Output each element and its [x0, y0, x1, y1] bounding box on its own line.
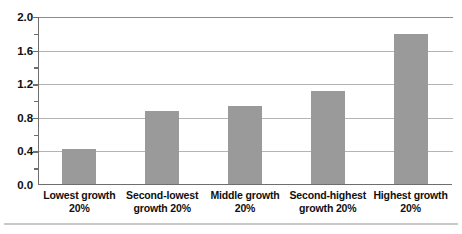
- y-axis-tick-label: 1.2: [0, 78, 33, 90]
- x-axis-label-second-highest-growth: Second-highest growth 20%: [286, 189, 369, 223]
- y-tick-0-2: [34, 168, 39, 169]
- x-label-line-2: 20%: [39, 202, 120, 215]
- y-tick-0-8: [33, 118, 39, 119]
- y-axis-tick-label: 0.8: [0, 112, 33, 124]
- x-axis-label-highest-growth: Highest growth 20%: [369, 189, 452, 223]
- bar-second-highest-growth: [311, 91, 345, 184]
- y-tick-1-8: [34, 34, 39, 35]
- x-axis-tick-labels: Lowest growth 20% Second-lowest growth 2…: [38, 189, 452, 223]
- gridline-2-0: [39, 17, 453, 18]
- bar-second-lowest-growth: [145, 111, 179, 184]
- bar-middle-growth: [228, 106, 262, 184]
- x-label-line-1: Second-highest: [287, 189, 368, 202]
- bar-highest-growth: [394, 34, 428, 184]
- gridline-1-6: [39, 51, 453, 52]
- y-axis-tick-label: 1.6: [0, 45, 33, 57]
- y-tick-1-0: [34, 101, 39, 102]
- y-tick-1-4: [34, 67, 39, 68]
- x-label-line-2: growth 20%: [122, 202, 203, 215]
- x-label-line-1: Second-lowest: [122, 189, 203, 202]
- y-axis-tick-label: 0.0: [0, 179, 33, 191]
- y-tick-0-4: [33, 151, 39, 152]
- gridline-1-2: [39, 84, 453, 85]
- x-label-line-1: Middle growth: [205, 189, 286, 202]
- y-tick-0-6: [34, 135, 39, 136]
- footer-divider: [4, 223, 458, 225]
- y-axis-tick-label: 0.4: [0, 145, 33, 157]
- x-label-line-1: Highest growth: [370, 189, 451, 202]
- x-label-line-1: Lowest growth: [39, 189, 120, 202]
- y-tick-1-6: [33, 51, 39, 52]
- x-label-line-2: growth 20%: [287, 202, 368, 215]
- y-axis-tick-label: 2.0: [0, 11, 33, 23]
- y-tick-1-2: [33, 84, 39, 85]
- bar-chart-figure: 2.0 1.6 1.2 0.8 0.4 0.0 Lowest growth 20…: [0, 0, 462, 234]
- bar-lowest-growth: [62, 149, 96, 184]
- plot-area: [38, 17, 452, 185]
- y-tick-2-0: [33, 17, 39, 18]
- x-axis-label-second-lowest-growth: Second-lowest growth 20%: [121, 189, 204, 223]
- x-axis-label-middle-growth: Middle growth 20%: [204, 189, 287, 223]
- x-label-line-2: 20%: [370, 202, 451, 215]
- x-label-line-2: 20%: [205, 202, 286, 215]
- x-axis-label-lowest-growth: Lowest growth 20%: [38, 189, 121, 223]
- y-axis-tick-labels: 2.0 1.6 1.2 0.8 0.4 0.0: [0, 17, 33, 185]
